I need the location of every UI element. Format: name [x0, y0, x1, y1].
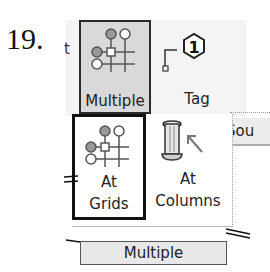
at-grids-button[interactable]: At Grids — [72, 114, 146, 220]
tag-button-label: Tag — [152, 90, 242, 108]
tag-button[interactable]: 1 Tag — [152, 20, 242, 114]
break-mark-bottom-left — [66, 238, 80, 244]
partial-tab[interactable]: Sou — [230, 118, 270, 146]
at-columns-line1: At — [148, 170, 228, 188]
multiple-tag-grid-icon — [81, 24, 149, 80]
multiple-button-label: Multiple — [81, 92, 149, 110]
panel-title-multiple: Multiple — [80, 241, 227, 265]
multiple-button[interactable]: Multiple — [79, 20, 151, 114]
at-columns-button[interactable]: At Columns — [148, 114, 228, 220]
break-mark-right — [226, 226, 252, 240]
partial-ribbon-label: t — [64, 40, 70, 58]
tag-hexagon-icon: 1 — [152, 28, 242, 88]
partial-divider — [230, 112, 270, 115]
grid-tag-icon — [75, 121, 143, 173]
column-arrow-icon — [148, 116, 228, 172]
break-mark-left — [64, 174, 78, 184]
step-number: 19. — [6, 22, 44, 56]
at-columns-line2: Columns — [148, 192, 228, 210]
tag-number: 1 — [188, 38, 199, 57]
at-grids-line2: Grids — [75, 195, 143, 213]
at-grids-line1: At — [75, 173, 143, 191]
